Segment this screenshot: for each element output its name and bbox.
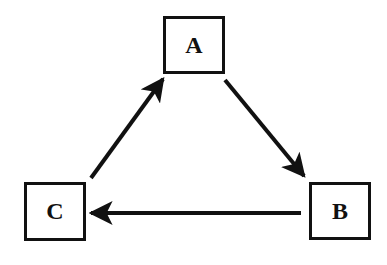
node-b-label: B xyxy=(332,198,348,225)
edge-c-to-a-arrow xyxy=(91,79,163,178)
edge-a-to-b-arrow xyxy=(225,80,304,176)
node-c-label: C xyxy=(46,198,63,225)
node-b: B xyxy=(309,182,371,240)
node-a: A xyxy=(163,16,225,74)
node-c: C xyxy=(24,182,86,241)
node-a-label: A xyxy=(185,32,202,59)
